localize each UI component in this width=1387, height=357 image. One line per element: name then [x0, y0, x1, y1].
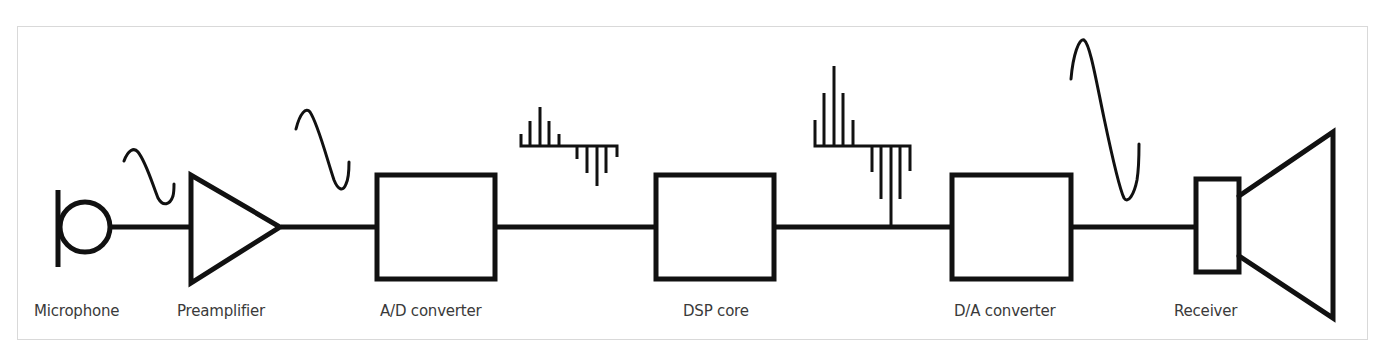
analog-wave-large-icon: [1071, 40, 1139, 200]
label-dsp-core: DSP core: [683, 302, 749, 320]
digital-samples-amplified-icon: [815, 66, 910, 227]
analog-wave-small-icon: [124, 150, 174, 204]
preamplifier-triangle-icon: [191, 175, 280, 283]
digital-samples-small-icon: [521, 107, 617, 186]
ad-converter-box: [377, 175, 495, 279]
microphone-icon: [58, 190, 110, 267]
label-ad-converter: A/D converter: [380, 302, 482, 320]
label-receiver: Receiver: [1174, 302, 1237, 320]
label-da-converter: D/A converter: [954, 302, 1056, 320]
label-preamplifier: Preamplifier: [177, 302, 265, 320]
label-microphone: Microphone: [34, 302, 119, 320]
da-converter-box: [952, 175, 1071, 279]
analog-wave-amplified-icon: [296, 110, 349, 189]
dsp-core-box: [656, 175, 774, 279]
receiver-speaker-icon: [1196, 132, 1333, 318]
